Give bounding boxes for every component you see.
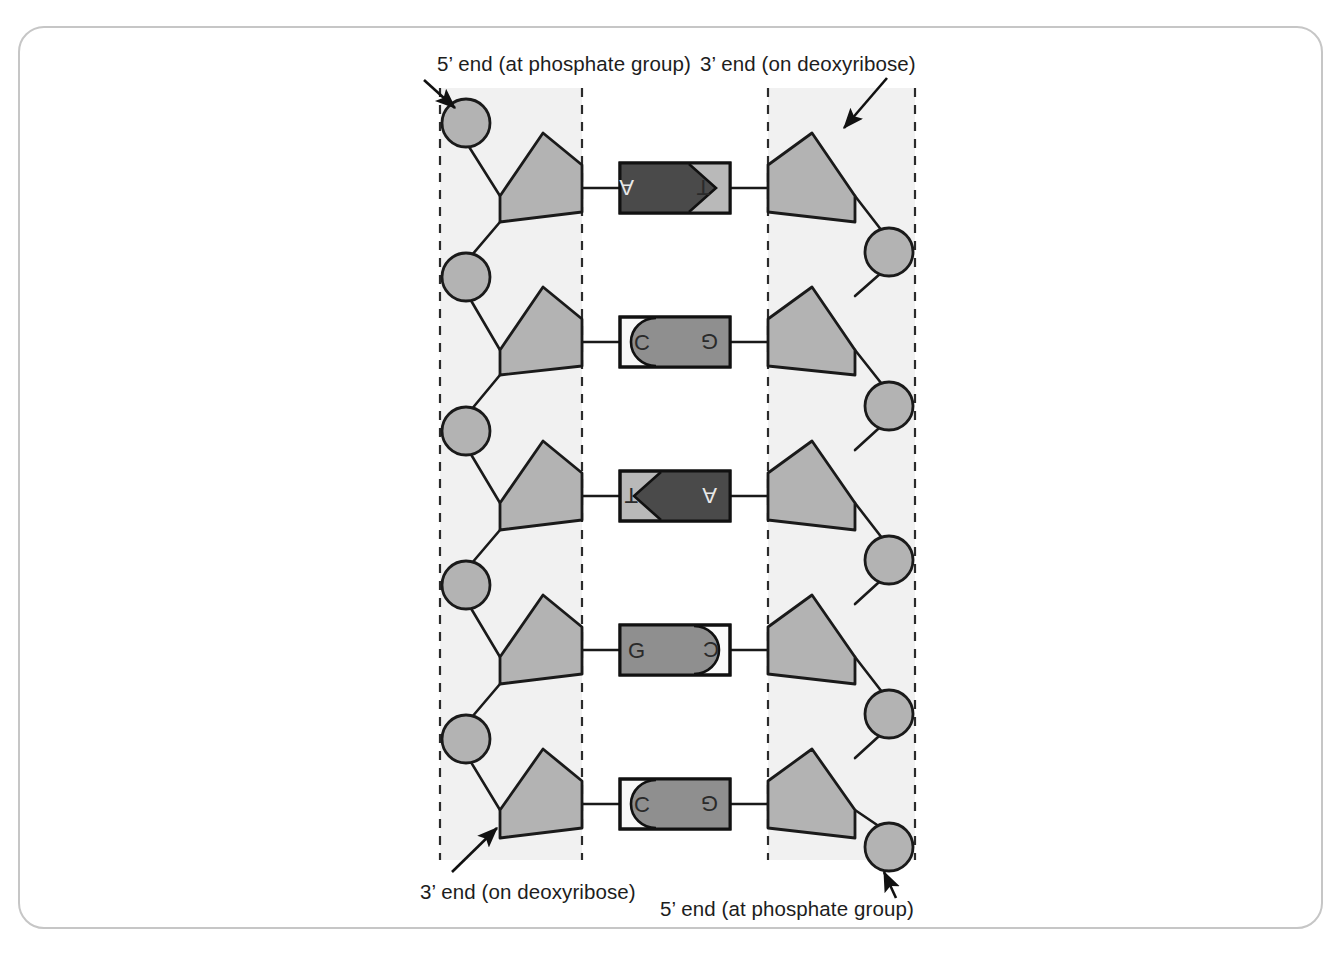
phosphate-left-5: [442, 715, 490, 763]
dna-structure-diagram: A T C G T A G C: [0, 0, 1337, 963]
phosphate-right-1: [865, 228, 913, 276]
base-pair-2: C G: [620, 317, 730, 367]
label-3prime-deoxyribose-top: 3’ end (on deoxyribose): [700, 52, 916, 76]
base-pair-5: C G: [620, 779, 730, 829]
label-5prime-phosphate-bottom: 5’ end (at phosphate group): [660, 897, 914, 921]
phosphate-right-4: [865, 690, 913, 738]
base-label-T-1: T: [697, 175, 710, 200]
phosphate-left-3: [442, 407, 490, 455]
base-pair-1: A T: [619, 163, 730, 213]
phosphate-left-2: [442, 253, 490, 301]
base-pair-4: G C: [620, 625, 730, 675]
base-label-C-2: C: [634, 330, 650, 355]
base-label-G-2: G: [701, 329, 718, 354]
base-label-A-1: A: [619, 175, 634, 200]
base-label-G-4: G: [628, 638, 645, 663]
base-pair-3: T A: [620, 471, 730, 521]
base-label-G-5: G: [701, 791, 718, 816]
base-label-A-3: A: [702, 483, 717, 508]
base-label-C-4: C: [703, 637, 719, 662]
phosphate-left-4: [442, 561, 490, 609]
phosphate-right-5: [865, 823, 913, 871]
label-5prime-phosphate-top: 5’ end (at phosphate group): [437, 52, 691, 76]
phosphate-left-1: [442, 99, 490, 147]
arrow-bottom-right: [884, 872, 896, 898]
base-label-T-3: T: [625, 483, 638, 508]
phosphate-right-2: [865, 382, 913, 430]
base-label-C-5: C: [634, 792, 650, 817]
phosphate-right-3: [865, 536, 913, 584]
figure-page: A T C G T A G C: [0, 0, 1337, 963]
label-3prime-deoxyribose-bottom: 3’ end (on deoxyribose): [420, 880, 636, 904]
